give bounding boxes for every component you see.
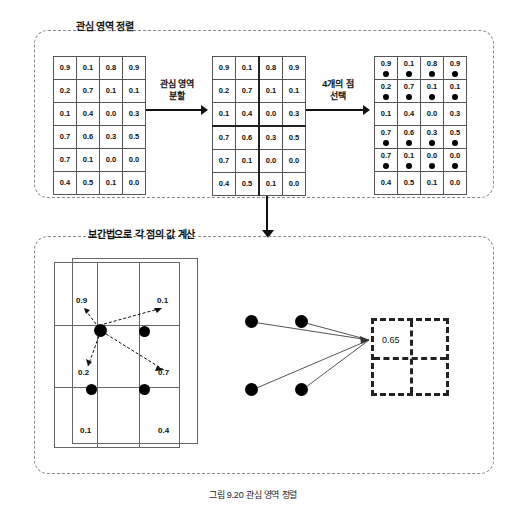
grid-cell: 0.0: [259, 150, 283, 173]
sample-dot: [452, 140, 458, 146]
top-panel-title: 관심 영역 정렬: [76, 18, 134, 33]
grid-cell-value: 0.7: [375, 129, 397, 137]
sample-dot: [452, 71, 458, 77]
sample-dot: [429, 71, 435, 77]
grid-row: 0.20.70.10.1: [54, 80, 146, 103]
grid-cell: 0.1: [421, 172, 444, 195]
grid-cell: 0.3: [100, 126, 123, 149]
sample-dot: [139, 326, 150, 337]
grid-cell: 0.1: [236, 57, 260, 80]
interp-label-top-left: 0.9: [76, 296, 87, 305]
grid-cell: 0.5: [444, 126, 467, 149]
sample-dot: [406, 140, 412, 146]
grid-cell: 0.1: [77, 57, 100, 80]
grid-cell: 0.5: [77, 172, 100, 195]
sample-dot: [245, 315, 258, 328]
grid-row: 0.90.10.80.9: [375, 57, 467, 80]
grid-cell: 0.6: [398, 126, 421, 149]
grid-cell: 0.0: [123, 172, 146, 195]
sample-dot: [452, 94, 458, 100]
interpolation-connector-lines: [54, 258, 202, 458]
grid-row: 0.70.60.30.5: [213, 126, 306, 150]
interp-label-bottom-right: 0.4: [158, 426, 169, 435]
grid-cell: 0.0: [123, 149, 146, 172]
grid-cell: 0.1: [236, 150, 260, 173]
grid-cell: 0.1: [77, 149, 100, 172]
grid-cell: 0.7: [236, 80, 260, 103]
grid-row: 0.20.70.10.1: [213, 80, 306, 103]
grid-cell: 0.2: [54, 80, 77, 103]
grid-row: 0.10.40.00.3: [54, 103, 146, 126]
grid-cell: 0.3: [444, 103, 467, 126]
grid-row: 0.40.50.10.0: [375, 172, 467, 195]
sample-dot: [139, 384, 150, 395]
grid-cell: 0.7: [77, 80, 100, 103]
grid-cell: 0.0: [100, 103, 123, 126]
grid-cell-value: 0.0: [421, 152, 443, 160]
grid-cell: 0.1: [283, 80, 306, 103]
grid-cell-value: 0.1: [444, 83, 466, 91]
interp-label-top-right: 0.1: [157, 296, 168, 305]
arrow-down-icon: [262, 196, 274, 240]
grid-cell: 0.9: [123, 57, 146, 80]
bilinear-interpolation-figure: 0.9 0.1 0.2 0.7 0.1 0.4: [54, 258, 202, 458]
grid-cell: 0.0: [259, 103, 283, 127]
grid-row: 0.40.50.10.0: [54, 172, 146, 195]
dashed-horizontal-divider: [374, 357, 446, 360]
grid-cell-value: 0.1: [398, 152, 420, 160]
sample-dot: [383, 140, 389, 146]
grid-cell: 0.7: [213, 150, 236, 173]
grid-cell: 0.0: [421, 103, 444, 126]
sample-dot: [406, 71, 412, 77]
sample-arrow-label-1: 4개의 점: [306, 78, 370, 90]
sample-dot: [429, 140, 435, 146]
grid-cell: 0.3: [259, 126, 283, 150]
sample-dot: [245, 383, 258, 396]
grid-cell: 0.4: [77, 103, 100, 126]
sample-dot: [429, 163, 435, 169]
grid-cell: 0.1: [54, 103, 77, 126]
grid-cell: 0.1: [100, 80, 123, 103]
split-arrow-group: 관심 영역 분할: [146, 78, 208, 115]
grid-cell: 0.6: [236, 126, 260, 150]
grid-cell-value: 0.5: [444, 129, 466, 137]
sample-dot: [383, 71, 389, 77]
grid-cell: 0.1: [123, 80, 146, 103]
split-arrow-label-2: 분할: [146, 90, 208, 102]
grid-cell-value: 0.2: [375, 83, 397, 91]
grid-cell: 0.3: [123, 103, 146, 126]
grid-cell: 0.1: [259, 173, 283, 196]
grid-cell-value: 0.0: [444, 152, 466, 160]
grid-cell-value: 0.6: [398, 129, 420, 137]
grid-cell-value: 0.3: [421, 129, 443, 137]
grid-cell: 0.1: [375, 103, 398, 126]
interp-target-dot: [94, 324, 107, 337]
grid-cell: 0.9: [283, 57, 306, 80]
grid-cell: 0.0: [283, 150, 306, 173]
grid-cell: 0.4: [54, 172, 77, 195]
grid-row: 0.10.40.00.3: [213, 103, 306, 127]
grid-row: 0.70.10.00.0: [54, 149, 146, 172]
grid-cell: 0.1: [100, 172, 123, 195]
grid-row: 0.70.10.00.0: [375, 149, 467, 172]
grid-cell: 0.4: [375, 172, 398, 195]
grid-cell: 0.0: [283, 173, 306, 196]
grid-cell: 0.4: [236, 103, 260, 127]
sample-dot: [295, 383, 308, 396]
bottom-panel-title: 보간법으로 각 점의 값 계산: [88, 226, 195, 241]
grid-cell: 0.4: [398, 103, 421, 126]
sample-dot: [383, 94, 389, 100]
grid-cell: 0.3: [421, 126, 444, 149]
split-arrow-label-1: 관심 영역: [146, 78, 208, 90]
grid-row: 0.70.10.00.0: [213, 150, 306, 173]
grid-cell: 0.8: [259, 57, 283, 80]
interp-label-mid-left: 0.2: [78, 368, 89, 377]
figure-root: 관심 영역 정렬 0.90.10.80.90.20.70.10.10.10.40…: [0, 0, 506, 524]
grid-cell: 0.7: [54, 126, 77, 149]
grid-cell: 0.2: [213, 80, 236, 103]
roi-sample-points-grid: 0.90.10.80.90.20.70.10.10.10.40.00.30.70…: [374, 56, 467, 195]
grid-cell: 0.5: [123, 126, 146, 149]
grid-cell: 0.9: [54, 57, 77, 80]
grid-cell: 0.5: [398, 172, 421, 195]
grid-cell: 0.0: [100, 149, 123, 172]
